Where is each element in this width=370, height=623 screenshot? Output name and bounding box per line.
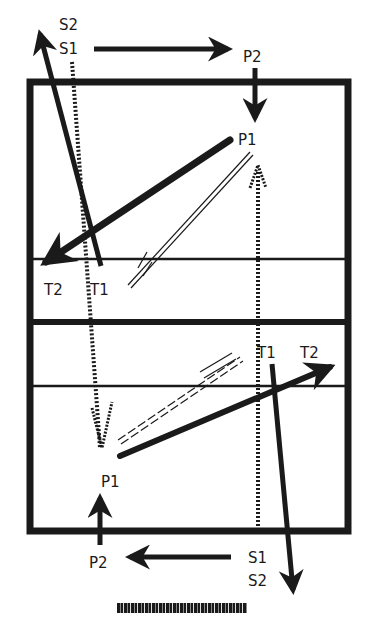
court-outline [30, 82, 348, 531]
label-t2-bottom: T2 [299, 344, 319, 362]
label-s2-bottom: S2 [248, 572, 267, 590]
label-p2-bottom: P2 [89, 554, 108, 572]
label-t1-top: T1 [89, 281, 109, 299]
rotation-diagram: S2 S1 P2 P1 T2 T1 T1 T2 P1 P2 S1 S2 [0, 0, 370, 623]
caption-strip [117, 603, 247, 613]
bottom-half-movements [92, 353, 330, 590]
label-p2-top: P2 [243, 48, 262, 66]
arrow-t1-down-bottom [272, 364, 293, 590]
label-s2-top: S2 [59, 16, 78, 34]
label-t1-bottom: T1 [256, 344, 276, 362]
label-t2-top: T2 [43, 281, 63, 299]
double-line-pass-top [128, 152, 253, 288]
label-s1-bottom: S1 [248, 549, 267, 567]
top-half-movements [40, 34, 266, 530]
hatched-arrowhead-down [92, 402, 112, 448]
label-s1-top: S1 [59, 40, 78, 58]
court [30, 82, 350, 531]
label-p1-bottom: P1 [101, 473, 120, 491]
label-p1-top: P1 [238, 131, 257, 149]
labels: S2 S1 P2 P1 T2 T1 T1 T2 P1 P2 S1 S2 [43, 16, 319, 590]
arrow-p1-to-t2-bottom [120, 367, 330, 456]
